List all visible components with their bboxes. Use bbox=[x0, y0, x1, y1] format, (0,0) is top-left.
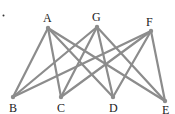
node-label-d: D bbox=[109, 101, 118, 114]
node-b bbox=[11, 95, 15, 99]
node-label-e: E bbox=[162, 103, 169, 114]
node-d bbox=[111, 95, 115, 99]
labels-group: AGFBCDE bbox=[9, 10, 169, 114]
edge-f-e bbox=[151, 31, 165, 101]
node-g bbox=[95, 25, 99, 29]
stray-dot bbox=[3, 15, 5, 17]
edge-g-d bbox=[97, 27, 113, 97]
node-a bbox=[46, 26, 50, 30]
node-label-g: G bbox=[92, 10, 101, 24]
bipartite-graph: AGFBCDE bbox=[0, 0, 175, 114]
edge-a-b bbox=[13, 28, 48, 97]
edges-group bbox=[13, 27, 165, 101]
node-label-a: A bbox=[43, 11, 52, 25]
node-label-c: C bbox=[57, 101, 65, 114]
edge-f-c bbox=[61, 31, 151, 97]
node-f bbox=[149, 29, 153, 33]
node-label-f: F bbox=[146, 15, 153, 29]
node-label-b: B bbox=[9, 101, 17, 114]
node-c bbox=[59, 95, 63, 99]
edge-g-c bbox=[61, 27, 97, 97]
